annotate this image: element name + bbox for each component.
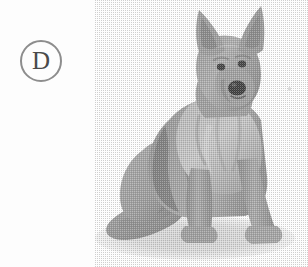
figure-panel-d: D [0,0,308,267]
dog-eye-right [238,61,246,68]
dust-speck-icon [288,87,291,91]
dog-illustration [95,0,308,267]
dog-eye-left [217,64,225,71]
nose-highlight [231,83,236,87]
dog-front-paw-right [245,226,282,244]
dog-photograph [95,0,308,267]
dog-nose [228,81,246,96]
panel-letter-badge: D [20,40,62,82]
panel-letter-text: D [32,48,50,73]
dog-front-leg-left [186,168,212,230]
dog-front-paw-left [181,226,218,243]
